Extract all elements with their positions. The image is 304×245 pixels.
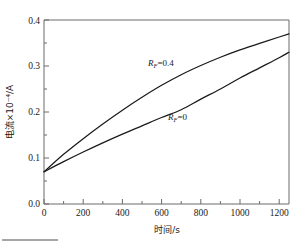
- x-tick-label-2: 400: [115, 208, 130, 218]
- x-tick-label-3: 600: [154, 208, 169, 218]
- y-axis-title: 电流×10⁻⁴/A: [4, 84, 15, 139]
- scan-edge-artifact: [2, 239, 58, 241]
- x-tick-label-5: 1000: [231, 208, 250, 218]
- y-tick-label-2: 0.2: [28, 107, 40, 117]
- annotation-rf-0point4-value: =0.4: [157, 58, 174, 68]
- x-axis-title: 时间/s: [154, 224, 180, 235]
- x-tick-label-1: 200: [76, 208, 91, 218]
- annotation-rf-0-value: =0: [177, 112, 187, 122]
- x-tick-label-0: 0: [42, 208, 47, 218]
- x-tick-label-4: 800: [194, 208, 209, 218]
- annotation-rf-0: RF=0: [167, 112, 188, 123]
- annotation-rf-0point4: RF=0.4: [147, 58, 174, 69]
- x-tick-label-6: 1200: [270, 208, 289, 218]
- y-tick-label-1: 0.1: [28, 153, 40, 163]
- y-tick-label-4: 0.4: [28, 16, 40, 26]
- chart-figure: 0.0 0.1 0.2 0.3 0.4 0 200 400 600 800 10…: [0, 0, 304, 245]
- y-tick-label-0: 0.0: [28, 199, 40, 209]
- current-vs-time-line-chart: 0.0 0.1 0.2 0.3 0.4 0 200 400 600 800 10…: [0, 0, 304, 245]
- y-tick-label-3: 0.3: [28, 61, 40, 71]
